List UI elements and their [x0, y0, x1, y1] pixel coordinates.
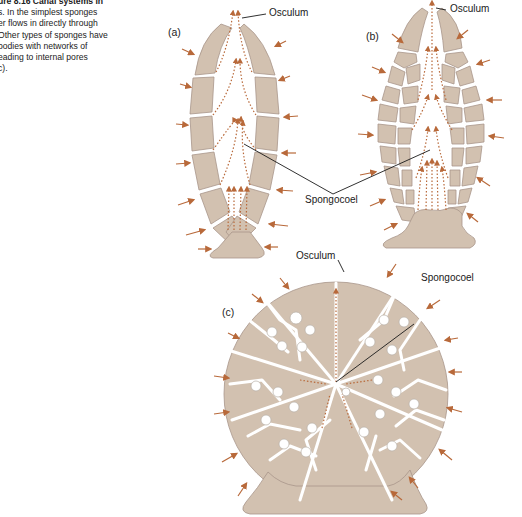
sponge-canal-diagram	[0, 0, 522, 517]
spongocoel-ab-label: Spongocoel	[305, 194, 358, 205]
panel-c-leuconoid	[214, 260, 462, 514]
panel-a-label: (a)	[168, 26, 181, 38]
spongocoel-c-label: Spongocoel	[421, 272, 474, 283]
osculum-b-label: Osculum	[450, 3, 489, 14]
panel-b-syconoid	[358, 2, 504, 248]
osculum-c-leader	[338, 260, 344, 272]
panel-a-asconoid	[176, 12, 298, 258]
osculum-a-leader	[242, 14, 266, 18]
panel-b-label: (b)	[366, 30, 379, 42]
panel-c-label: (c)	[222, 306, 234, 318]
osculum-c-label: Osculum	[296, 250, 335, 261]
osculum-a-label: Osculum	[269, 7, 308, 18]
